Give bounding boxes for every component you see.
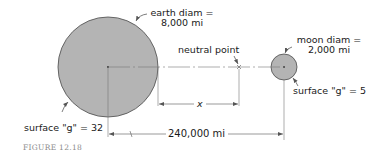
figure-caption: FIGURE 12.18 <box>23 143 82 152</box>
moon-diam-label-line2: 2,000 mi <box>293 45 365 55</box>
earth-diam-label-line2: 8,000 mi <box>146 18 218 28</box>
moon-diam-leader <box>285 47 292 53</box>
distance-x-label: x <box>197 99 203 109</box>
neutral-point-leader <box>234 56 238 64</box>
earth-surface-g-leader <box>62 102 68 112</box>
earth-moon-neutral-point-diagram: earth diam = 8,000 mi neutral point moon… <box>0 0 377 154</box>
neutral-point-label: neutral point <box>178 45 239 55</box>
moon-diam-label: moon diam = 2,000 mi <box>293 35 365 55</box>
earth-diam-label: earth diam = 8,000 mi <box>146 8 218 28</box>
distance-total-label: 240,000 mi <box>168 129 225 139</box>
earth-surface-g-label: surface "g" = 32 <box>24 123 103 133</box>
moon-surface-g-label: surface "g" = 5 <box>293 86 366 96</box>
